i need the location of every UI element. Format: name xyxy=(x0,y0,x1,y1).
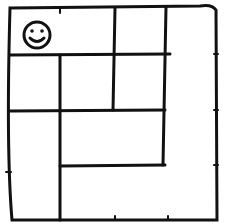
maze-outer-border xyxy=(8,6,217,221)
maze-wall-h1 xyxy=(10,54,170,55)
maze-diagram xyxy=(0,0,225,223)
smiley-face-icon xyxy=(24,22,50,48)
maze-wall-v3 xyxy=(163,7,166,165)
maze-wall-h3 xyxy=(60,165,165,166)
maze-wall-h2 xyxy=(10,110,165,111)
maze-wall-v2 xyxy=(113,8,115,110)
